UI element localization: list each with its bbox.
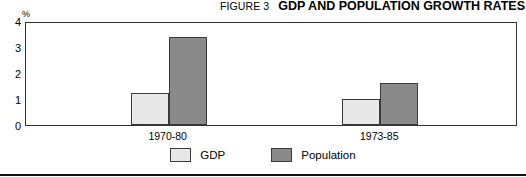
bottom-divider (0, 174, 526, 176)
y-axis-tick-label: 4 (8, 17, 21, 28)
y-axis-tick-label: 3 (8, 43, 21, 54)
plot-area (25, 22, 517, 126)
page-title: GDP AND POPULATION GROWTH RATES (278, 0, 525, 13)
bar-gdp-1973-85 (342, 99, 380, 125)
bar-gdp-1970-80 (131, 93, 169, 126)
y-axis-tick-label: 2 (8, 69, 21, 80)
legend-swatch-icon (271, 148, 292, 162)
x-axis-category-label: 1970-80 (148, 130, 187, 142)
legend-item-gdp: GDP (170, 148, 225, 162)
y-axis-unit-label: % (22, 9, 30, 19)
legend-label: Population (301, 149, 355, 161)
y-axis-tick-label: 1 (8, 95, 21, 106)
x-axis-category-label: 1973-85 (360, 130, 399, 142)
y-axis-tick-label: 0 (8, 121, 21, 132)
figure-number: FIGURE 3 (220, 0, 269, 13)
bar-population-1973-85 (380, 83, 418, 125)
bar-population-1970-80 (169, 37, 207, 125)
chart-header: FIGURE 3 GDP AND POPULATION GROWTH RATES (0, 0, 526, 14)
legend-label: GDP (200, 149, 225, 161)
legend-swatch-icon (170, 148, 191, 162)
legend-item-population: Population (271, 148, 355, 162)
chart-legend: GDPPopulation (0, 148, 526, 162)
